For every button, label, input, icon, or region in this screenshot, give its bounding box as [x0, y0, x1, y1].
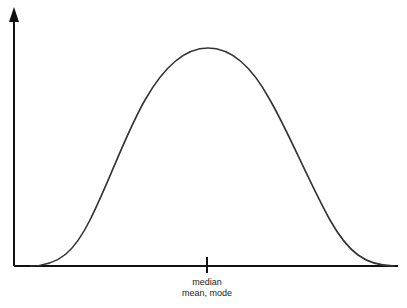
y-axis-arrow-icon [9, 7, 19, 22]
mean-mode-label: mean, mode [147, 288, 267, 299]
distribution-diagram [0, 0, 407, 308]
median-label: median [147, 277, 267, 288]
bell-curve [30, 48, 395, 266]
